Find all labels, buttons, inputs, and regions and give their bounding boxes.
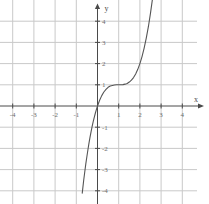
x-axis-arrow-icon <box>198 103 204 108</box>
y-tick-label: -4 <box>102 187 108 195</box>
y-tick-label: -1 <box>102 124 108 132</box>
y-axis-arrow-icon <box>95 4 100 10</box>
x-tick-label: -2 <box>52 111 58 119</box>
y-tick-label: -2 <box>102 145 108 153</box>
x-tick-label: -3 <box>31 111 37 119</box>
y-tick-label: 1 <box>102 81 106 89</box>
x-tick-label: 3 <box>159 111 163 119</box>
x-tick-label: 4 <box>181 111 185 119</box>
x-axis-label: x <box>194 95 198 104</box>
y-tick-label: 2 <box>102 60 106 68</box>
x-tick-label: -4 <box>10 111 16 119</box>
plot-area: -4-3-2-11234 4321-1-2-3-4 x y <box>0 0 209 204</box>
x-tick-label: -1 <box>73 111 79 119</box>
y-tick-label: 4 <box>102 18 106 26</box>
y-axis-label: y <box>105 4 109 13</box>
y-tick-label: -3 <box>102 166 108 174</box>
function-curve <box>82 0 152 193</box>
cubic-function-graph: -4-3-2-11234 4321-1-2-3-4 x y <box>0 0 209 204</box>
x-tick-label: 2 <box>138 111 142 119</box>
x-tick-label: 1 <box>117 111 121 119</box>
y-axis-tick-labels: 4321-1-2-3-4 <box>102 18 108 196</box>
y-tick-label: 3 <box>102 39 106 47</box>
